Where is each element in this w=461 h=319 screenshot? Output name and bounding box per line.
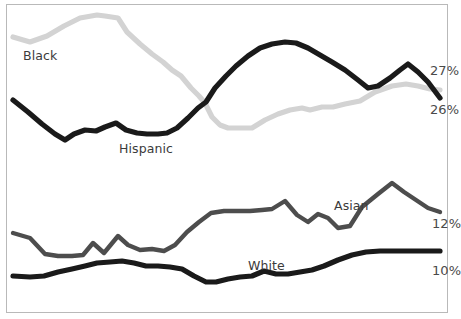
series-line-black <box>13 15 440 128</box>
chart-container: Black Hispanic Asian White 27% 26% 12% 1… <box>0 0 461 319</box>
end-value-label-hispanic: 26% <box>430 102 459 117</box>
series-line-asian <box>13 183 440 256</box>
series-label-black: Black <box>23 48 57 63</box>
end-value-label-white: 10% <box>432 263 461 278</box>
series-label-hispanic: Hispanic <box>119 141 173 156</box>
series-label-asian: Asian <box>334 198 369 213</box>
end-value-label-asian: 12% <box>432 216 461 231</box>
series-label-white: White <box>248 258 285 273</box>
series-lines <box>0 0 461 319</box>
end-value-label-black: 27% <box>430 63 459 78</box>
